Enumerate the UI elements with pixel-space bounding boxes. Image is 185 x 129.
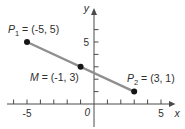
midpoint-figure-svg: -5550xyP1 = (-5, 5)M = (-1, 3)P2 = (3, 1… — [0, 0, 185, 129]
y-axis-label: y — [83, 2, 90, 14]
point-label-P2: P2 = (3, 1) — [127, 72, 175, 87]
x-tick-label-5: 5 — [158, 108, 164, 119]
point-label-P1: P1 = (-5, 5) — [8, 23, 59, 38]
point-M — [78, 64, 84, 70]
midpoint-figure: -5550xyP1 = (-5, 5)M = (-1, 3)P2 = (3, 1… — [0, 0, 185, 129]
x-axis-label: x — [173, 107, 180, 119]
point-P2 — [131, 89, 137, 95]
y-axis-arrow — [91, 8, 97, 15]
y-tick-label-5: 5 — [83, 37, 89, 48]
point-label-M: M = (-1, 3) — [30, 71, 79, 83]
x-tick-label--5: -5 — [23, 108, 32, 119]
origin-label: 0 — [84, 107, 90, 118]
point-P1 — [24, 39, 30, 45]
